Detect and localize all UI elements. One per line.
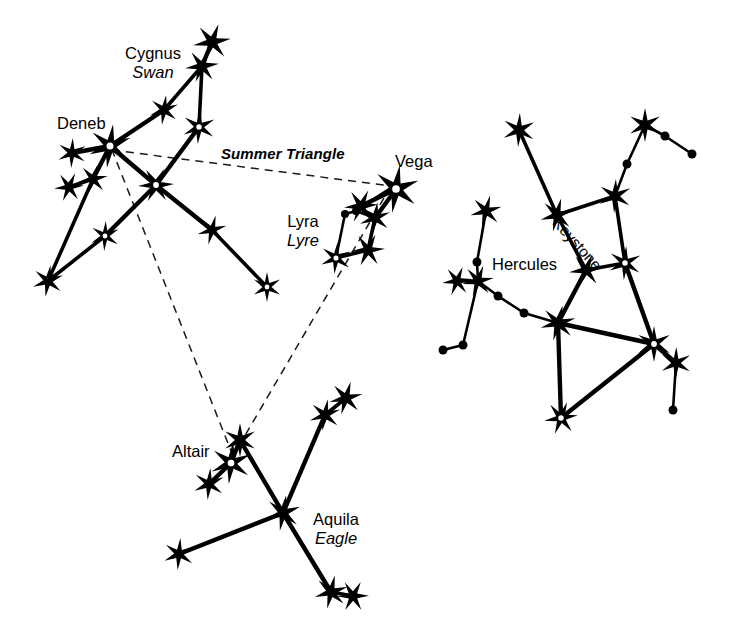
star-core-highlight [228, 460, 235, 467]
constellation-line [558, 323, 654, 344]
star-marker [54, 173, 84, 200]
constellation-line [498, 296, 524, 313]
constellation-line [156, 127, 199, 185]
constellation-line [179, 513, 283, 554]
faint-star-dot [520, 309, 529, 318]
lyra-name-label: Lyra [272, 212, 334, 231]
constellation-line [625, 263, 654, 344]
faint-star-dot [459, 341, 468, 350]
constellation-line [48, 179, 93, 281]
star-marker [337, 582, 369, 610]
aquila-common-label: Eagle [300, 529, 372, 548]
hercules-label: Hercules [492, 255, 557, 273]
cygnus-common-label: Swan [118, 63, 188, 82]
star-core-highlight [558, 415, 563, 420]
aquila-name-label: Aquila [300, 510, 372, 529]
star-marker [315, 575, 348, 608]
faint-star-dot [352, 207, 360, 215]
constellation-line [561, 344, 654, 418]
constellation-line [615, 196, 625, 263]
star-marker [225, 423, 254, 457]
summer-triangle-label: Summer Triangle [221, 146, 345, 163]
star-core-highlight [106, 142, 113, 149]
faint-star-dot [669, 406, 678, 415]
faint-star-dot [341, 210, 349, 218]
faint-star-dot [473, 258, 482, 267]
cygnus-label-group: Cygnus Swan [118, 44, 188, 82]
star-marker [165, 538, 194, 570]
constellation-line [558, 323, 561, 418]
constellation-line [665, 136, 692, 154]
star-marker [630, 108, 659, 142]
star-marker [266, 495, 300, 530]
aquila-label-group: Aquila Eagle [300, 510, 372, 548]
deneb-label: Deneb [57, 114, 106, 132]
star-core-highlight [103, 234, 108, 239]
constellation-line [156, 185, 212, 230]
star-core-highlight [196, 124, 201, 129]
vega-label: Vega [395, 152, 433, 170]
star-core-highlight [265, 285, 270, 290]
star-marker [193, 24, 230, 60]
constellation-line [283, 415, 325, 513]
star-core-highlight [622, 260, 627, 265]
constellation-line [105, 185, 156, 236]
star-core-highlight [651, 341, 657, 347]
star-chart: Cygnus Swan Deneb Summer Triangle Vega L… [0, 0, 735, 640]
star-marker [78, 165, 107, 194]
star-marker [471, 196, 502, 227]
star-marker [600, 179, 630, 213]
star-core-highlight [333, 255, 338, 260]
faint-star-dot [661, 132, 670, 141]
star-marker [33, 265, 63, 297]
constellation-line [240, 440, 283, 513]
cygnus-name-label: Cygnus [118, 44, 188, 63]
faint-star-dot [623, 160, 632, 169]
star-core-highlight [153, 182, 159, 188]
altair-label: Altair [172, 442, 210, 460]
lyra-label-group: Lyra Lyre [272, 212, 334, 250]
star-marker [310, 399, 340, 431]
faint-star-dot [688, 150, 697, 159]
star-marker [504, 113, 534, 147]
faint-star-dot [494, 292, 503, 301]
constellation-line [519, 130, 557, 215]
lyra-common-label: Lyre [272, 231, 334, 250]
summer-triangle-lines [112, 150, 391, 456]
star-core-highlight [392, 185, 400, 193]
faint-star-dot [439, 346, 448, 355]
star-marker [351, 235, 385, 266]
